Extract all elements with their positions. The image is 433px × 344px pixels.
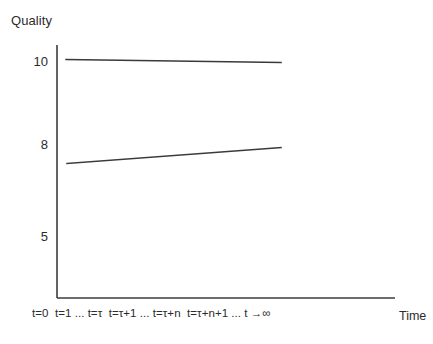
- data-line-upper: [66, 60, 281, 63]
- y-axis-tick-label-8: 8: [14, 138, 48, 151]
- chart-plot-area: [0, 0, 433, 344]
- x-axis-title: Time: [399, 310, 426, 323]
- x-axis-tick-labels: t=0 t=1 ... t=τ t=τ+1 ... t=τ+n t=τ+n+1 …: [32, 308, 271, 320]
- y-axis-tick-label-5: 5: [14, 230, 48, 243]
- quality-over-time-chart: Quality 10 8 5 t=0 t=1 ... t=τ t=τ+1 ...…: [0, 0, 433, 344]
- chart-title: Quality: [11, 14, 52, 27]
- y-axis-tick-label-10: 10: [14, 55, 48, 68]
- data-line-lower: [67, 148, 281, 164]
